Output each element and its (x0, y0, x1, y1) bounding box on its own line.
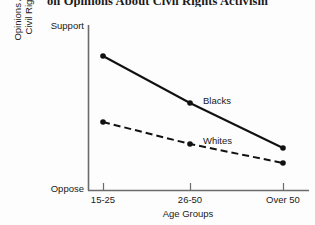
series-label-whites: Whites (203, 135, 232, 146)
x-tick-label-2: 26-50 (160, 194, 220, 205)
plot-area (0, 0, 315, 225)
series-label-blacks: Blacks (203, 95, 231, 106)
data-point-blacks-3 (280, 145, 286, 151)
series-line-whites (103, 122, 283, 163)
data-point-whites-2 (187, 141, 193, 147)
series-line-blacks (103, 56, 283, 148)
data-point-whites-1 (100, 119, 106, 125)
data-point-blacks-1 (100, 53, 106, 59)
data-point-whites-3 (280, 160, 286, 166)
x-tick-label-3: Over 50 (253, 194, 313, 205)
x-tick-label-1: 15-25 (73, 194, 133, 205)
x-axis-title: Age Groups (88, 208, 288, 219)
data-point-blacks-2 (187, 100, 193, 106)
chart-figure: on Opinions About Civil Rights Activism … (0, 0, 315, 225)
